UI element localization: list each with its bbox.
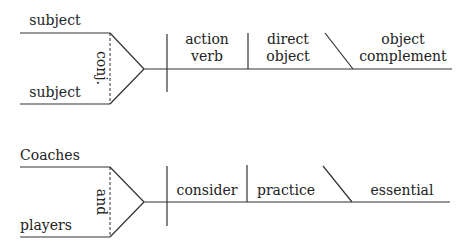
direct-object-label-line1: direct [267, 31, 309, 47]
object-complement-label: essential [371, 182, 434, 198]
conjunction-label: conj. [94, 51, 110, 85]
object-complement-label-line1: object [381, 31, 425, 47]
fork-lower [110, 69, 144, 104]
subject-label-top: subject [29, 12, 81, 28]
object-complement-label-line2: complement [359, 48, 447, 64]
conjunction-label: and [94, 189, 110, 215]
direct-object-label: practice [257, 182, 315, 198]
fork-upper [110, 33, 144, 69]
subject-label-bottom: subject [29, 84, 81, 100]
verb-label-line1: action [185, 31, 229, 47]
diagram-example: Coaches players and consider practice es… [20, 147, 450, 237]
verb-label-line2: verb [190, 48, 223, 64]
sentence-diagrams: subject subject conj. action verb direct… [0, 0, 469, 251]
verb-label: consider [177, 182, 238, 198]
fork-upper [110, 167, 144, 202]
subject-label-top: Coaches [20, 147, 80, 163]
direct-object-label-line2: object [266, 48, 310, 64]
object-complement-slant [325, 33, 353, 69]
object-complement-slant [323, 166, 352, 202]
subject-label-bottom: players [20, 217, 72, 233]
fork-lower [110, 202, 144, 237]
diagram-template: subject subject conj. action verb direct… [20, 12, 452, 104]
